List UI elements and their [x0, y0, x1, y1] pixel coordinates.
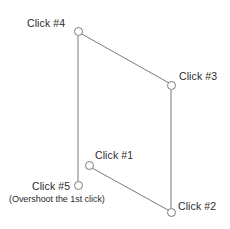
node-label-click-4: Click #4 — [27, 17, 65, 29]
click-path-diagram: Click #4 Click #3 Click #1 Click #5 (Ove… — [0, 0, 230, 229]
node-marker-click-4[interactable] — [74, 27, 83, 36]
node-marker-click-3[interactable] — [167, 81, 176, 90]
node-marker-click-1[interactable] — [85, 161, 94, 170]
node-sublabel-click-5: (Overshoot the 1st click) — [9, 194, 105, 205]
node-label-click-3: Click #3 — [179, 70, 217, 82]
edge-click4-click3 — [80, 33, 169, 83]
node-label-click-2: Click #2 — [178, 200, 216, 212]
node-marker-click-2[interactable] — [167, 208, 176, 217]
node-label-click-5: Click #5 — [32, 180, 70, 192]
node-label-click-1: Click #1 — [95, 149, 133, 161]
node-marker-click-5[interactable] — [74, 181, 83, 190]
